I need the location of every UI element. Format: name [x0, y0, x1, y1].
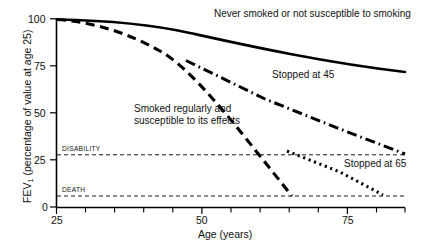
- y-tick-label-100: 100: [28, 14, 46, 25]
- x-axis-title: Age (years): [198, 228, 252, 240]
- y-axis-title-subscript: 1: [26, 178, 35, 182]
- annotation-smoked-regularly-line1: Smoked regularly and: [134, 103, 240, 115]
- y-tick-label-25: 25: [34, 155, 46, 166]
- death-label: DEATH: [62, 186, 85, 193]
- fev1-decline-chart: 100 75 50 25 0 25 50 75 Age (years) FEV1…: [0, 0, 432, 243]
- x-tick-label-75: 75: [342, 215, 354, 226]
- y-tick-label-75: 75: [34, 61, 46, 72]
- y-tick-label-50: 50: [34, 108, 46, 119]
- y-axis-title-main: FEV: [21, 183, 33, 203]
- x-tick-label-25: 25: [51, 215, 63, 226]
- annotation-smoked-regularly-line2: susceptible to its effects: [134, 115, 240, 127]
- y-axis-title: FEV1 (percentage of value at age 25): [21, 33, 33, 203]
- x-tick-label-50: 50: [196, 215, 208, 226]
- annotation-smoked-regularly: Smoked regularly and susceptible to its …: [134, 103, 240, 127]
- y-tick-label-0: 0: [42, 202, 48, 213]
- annotation-never-smoked: Never smoked or not susceptible to smoki…: [214, 8, 411, 20]
- disability-label: DISABILITY: [62, 145, 101, 152]
- y-axis-ticks: [50, 19, 57, 207]
- y-axis-title-rest: (percentage of value at age 25): [21, 30, 33, 179]
- series-never-smoked: [57, 20, 405, 73]
- annotation-stopped-at-45: Stopped at 45: [272, 69, 334, 81]
- annotation-stopped-at-65: Stopped at 65: [344, 158, 406, 170]
